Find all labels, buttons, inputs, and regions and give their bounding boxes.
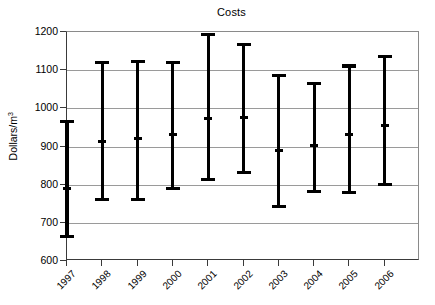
error-bar xyxy=(307,32,321,261)
error-bar xyxy=(131,32,145,261)
error-bar-mid-marker xyxy=(98,140,106,143)
error-bar-cap-upper xyxy=(166,61,180,64)
error-bar-mid-marker xyxy=(310,144,318,147)
error-bar-cap-upper xyxy=(131,60,145,63)
y-axis-label: Dollars/m3 xyxy=(7,76,20,196)
y-axis-tick-label: 1200 xyxy=(20,26,58,36)
error-bar-cap-upper xyxy=(60,120,74,123)
error-bar-stem xyxy=(136,62,139,200)
x-axis-tick xyxy=(278,260,279,266)
error-bar-cap-upper xyxy=(342,64,356,67)
x-axis-tick xyxy=(101,260,102,266)
error-bar-cap-lower xyxy=(307,190,321,193)
x-axis-tick-label: 2002 xyxy=(215,268,254,305)
y-axis-tick-label: 900 xyxy=(20,141,58,151)
x-axis-tick-label: 2004 xyxy=(286,268,325,305)
error-bar-stem xyxy=(277,76,280,207)
x-axis-tick xyxy=(66,260,67,266)
x-axis-tick xyxy=(243,260,244,266)
error-bar-stem xyxy=(383,57,386,185)
error-bar-cap-upper xyxy=(237,43,251,46)
x-axis-tick-label: 2003 xyxy=(251,268,290,305)
error-bar xyxy=(272,32,286,261)
error-bar xyxy=(95,32,109,261)
error-bar-cap-lower xyxy=(272,205,286,208)
error-bar-cap-lower xyxy=(201,178,215,181)
error-bar-stem xyxy=(101,63,104,200)
error-bar-cap-upper xyxy=(201,33,215,36)
error-bar-stem xyxy=(313,84,316,192)
error-bar-mid-marker xyxy=(240,116,248,119)
x-axis-tick-label: 1997 xyxy=(39,268,78,305)
chart-container: Costs Dollars/m3 60070080090010001100120… xyxy=(0,0,435,305)
error-bar-mid-marker xyxy=(381,124,389,127)
error-bar xyxy=(237,32,251,261)
error-bar-cap-upper xyxy=(378,55,392,58)
chart-title-text: Costs xyxy=(217,6,246,18)
x-axis-tick-label: 2005 xyxy=(321,268,360,305)
plot-area xyxy=(66,31,419,260)
error-bar-cap-lower xyxy=(378,183,392,186)
y-axis-tick-label: 800 xyxy=(20,179,58,189)
error-bar-mid-marker xyxy=(275,149,283,152)
y-axis-label-text: Dollars/m xyxy=(7,116,19,160)
error-bar-cap-lower xyxy=(131,198,145,201)
error-bar-cap-upper xyxy=(307,82,321,85)
error-bar-cap-upper xyxy=(95,61,109,64)
x-axis-tick-label: 2001 xyxy=(180,268,219,305)
x-axis-tick-label: 1999 xyxy=(109,268,148,305)
error-bar-stem xyxy=(242,45,245,173)
x-axis-tick xyxy=(137,260,138,266)
error-bar-cap-upper xyxy=(272,74,286,77)
error-bar-cap-lower xyxy=(95,198,109,201)
error-bar xyxy=(166,32,180,261)
error-bar-mid-marker xyxy=(63,187,71,190)
error-bar xyxy=(378,32,392,261)
x-axis-tick-label: 2006 xyxy=(357,268,396,305)
x-axis-tick xyxy=(172,260,173,266)
chart-title: Costs xyxy=(0,6,435,18)
y-axis-tick-label: 1100 xyxy=(20,64,58,74)
error-bar-stem xyxy=(348,66,351,193)
error-bar-cap-lower xyxy=(342,191,356,194)
error-bar-mid-marker xyxy=(345,133,353,136)
y-axis-tick-label: 1000 xyxy=(20,102,58,112)
error-bar xyxy=(342,32,356,261)
y-axis-tick-label: 600 xyxy=(20,255,58,265)
x-axis-tick xyxy=(384,260,385,266)
error-bar-cap-lower xyxy=(237,171,251,174)
error-bar-cap-lower xyxy=(60,235,74,238)
error-bar-mid-marker xyxy=(204,117,212,120)
error-bar-stem xyxy=(65,121,68,236)
error-bar xyxy=(201,32,215,261)
error-bar-mid-marker xyxy=(169,133,177,136)
x-axis-tick xyxy=(207,260,208,266)
x-axis-tick-label: 2000 xyxy=(145,268,184,305)
error-bar-stem xyxy=(207,35,210,180)
error-bar-stem xyxy=(171,63,174,189)
x-axis-tick xyxy=(348,260,349,266)
x-axis-tick xyxy=(313,260,314,266)
y-axis-tick-label: 700 xyxy=(20,217,58,227)
error-bar-cap-lower xyxy=(166,187,180,190)
x-axis-tick-label: 1998 xyxy=(74,268,113,305)
error-bar-mid-marker xyxy=(134,137,142,140)
error-bar xyxy=(60,32,74,261)
y-axis-label-superscript: 3 xyxy=(7,112,14,116)
